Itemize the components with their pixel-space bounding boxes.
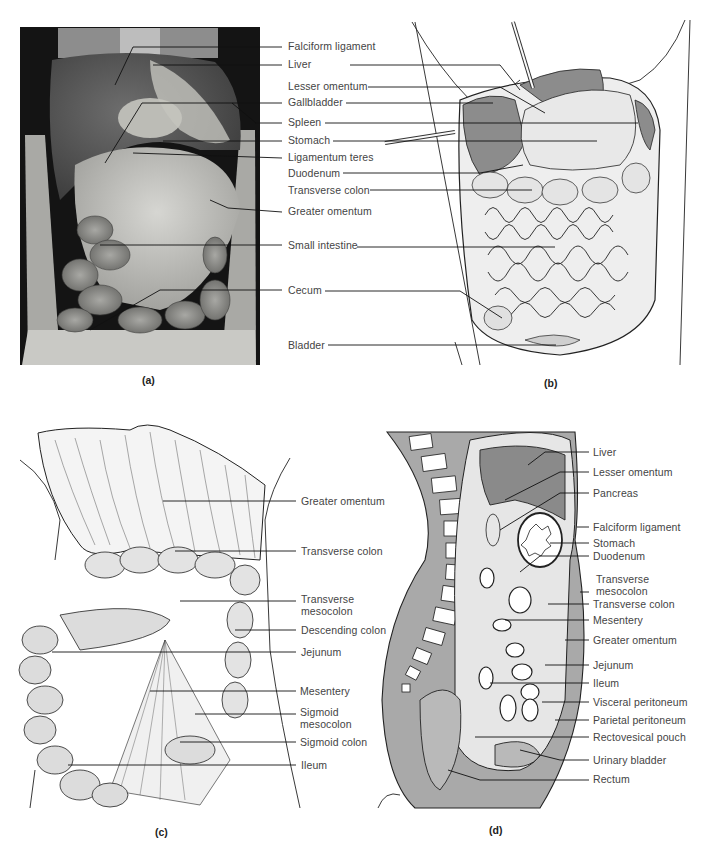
label-d-liver: Liver <box>593 446 616 458</box>
label-d-pancreas: Pancreas <box>593 487 638 499</box>
label-d-rectum: Rectum <box>593 773 630 785</box>
label-d-visceral-peritoneum: Visceral peritoneum <box>593 696 688 708</box>
label-d-jejunum: Jejunum <box>593 659 633 671</box>
panel-d-caption: (d) <box>489 824 502 836</box>
label-d-mesentery: Mesentery <box>593 614 643 626</box>
label-d-transverse-colon: Transverse colon <box>593 598 675 610</box>
label-d-greater-omentum: Greater omentum <box>593 634 677 646</box>
label-d-falciform-ligament: Falciform ligament <box>593 521 681 533</box>
panel-d-illustration: Liver Lesser omentum Pancreas Falciform … <box>0 0 701 848</box>
label-d-rectovesical-pouch: Rectovesical pouch <box>593 731 686 743</box>
label-d-stomach: Stomach <box>593 537 635 549</box>
label-d-lesser-omentum: Lesser omentum <box>593 466 673 478</box>
label-d-duodenum: Duodenum <box>593 550 645 562</box>
label-d-urinary-bladder: Urinary bladder <box>593 754 666 766</box>
label-d-transverse-mesocolon: Transverse mesocolon <box>596 573 666 597</box>
label-d-parietal-peritoneum: Parietal peritoneum <box>593 714 686 726</box>
label-d-ileum: Ileum <box>593 677 619 689</box>
